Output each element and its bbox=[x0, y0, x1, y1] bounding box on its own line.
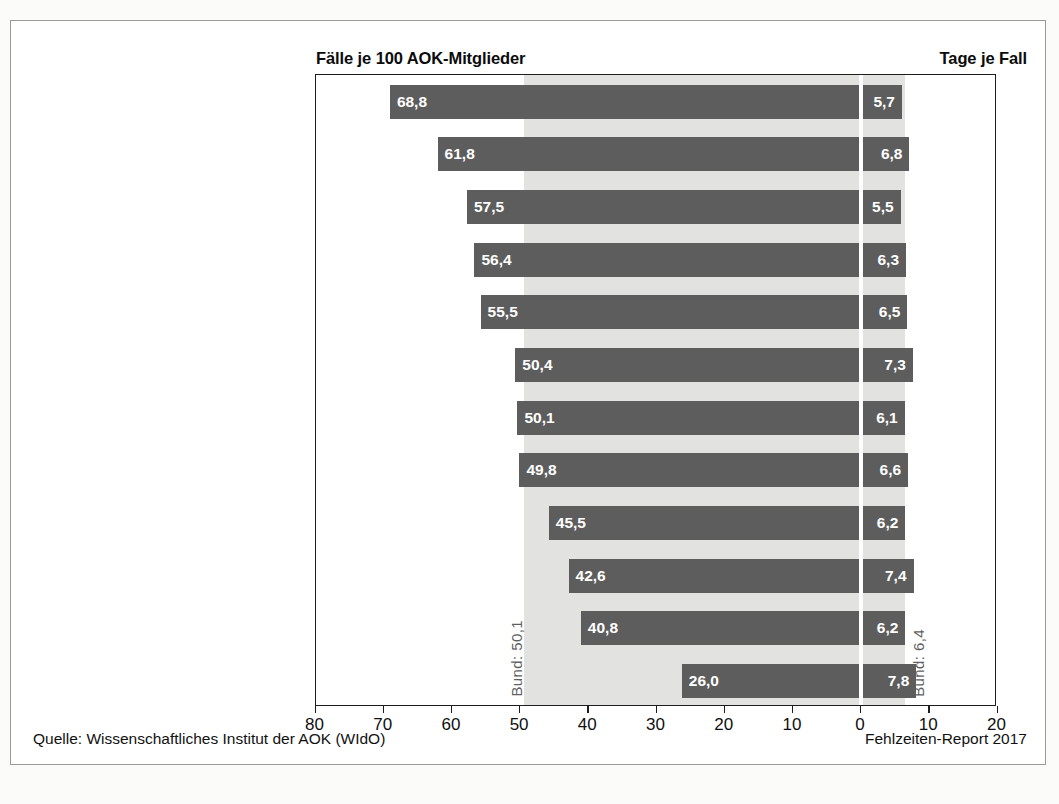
bar-left[interactable]: 50,1 bbox=[517, 401, 859, 435]
bar-value-right: 6,1 bbox=[876, 410, 898, 426]
bar-right[interactable]: 6,3 bbox=[863, 243, 906, 277]
bar-left[interactable]: 68,8 bbox=[390, 85, 859, 119]
axis-tick bbox=[383, 706, 384, 713]
bar-value-right: 6,2 bbox=[877, 515, 899, 531]
reference-label-left: Bund: 50,1 bbox=[508, 620, 525, 697]
bar-value-right: 6,8 bbox=[881, 146, 903, 162]
bar-right[interactable]: 7,8 bbox=[863, 664, 916, 698]
figure-frame: Fälle je 100 AOK-Mitglieder Tage je Fall… bbox=[10, 20, 1046, 765]
bar-left[interactable]: 57,5 bbox=[467, 190, 859, 224]
axis-tick bbox=[792, 706, 793, 713]
bar-value-left: 55,5 bbox=[488, 304, 518, 320]
bar-row: Land- und Forstwirtschaft26,07,8 bbox=[316, 655, 995, 708]
footer: Quelle: Wissenschaftliches Institut der … bbox=[33, 730, 1027, 752]
bar-row: Erziehung und Unterricht68,85,7 bbox=[316, 76, 995, 129]
bar-right[interactable]: 6,8 bbox=[863, 137, 909, 171]
bar-row: Baugewerbe40,86,2 bbox=[316, 602, 995, 655]
bar-row: Verarbeitendes Gewerbe49,86,6 bbox=[316, 444, 995, 497]
bar-value-left: 57,5 bbox=[474, 199, 504, 215]
axis-tick bbox=[928, 706, 929, 713]
bar-value-right: 7,4 bbox=[885, 568, 907, 584]
bar-left[interactable]: 49,8 bbox=[519, 453, 859, 487]
bar-value-left: 50,4 bbox=[522, 357, 552, 373]
bar-value-left: 49,8 bbox=[526, 462, 556, 478]
bar-value-left: 45,5 bbox=[556, 515, 586, 531]
bar-right[interactable]: 6,2 bbox=[863, 611, 905, 645]
bar-left[interactable]: 26,0 bbox=[682, 664, 859, 698]
bar-right[interactable]: 5,7 bbox=[863, 85, 902, 119]
bar-row: Gesundheits- und Sozialwesen55,56,5 bbox=[316, 286, 995, 339]
bar-row: Banken/Versicherungen57,55,5 bbox=[316, 181, 995, 234]
reference-label-right: Bund: 6,4 bbox=[910, 629, 927, 697]
bar-value-left: 40,8 bbox=[588, 620, 618, 636]
bar-value-left: 50,1 bbox=[524, 410, 554, 426]
bar-value-left: 68,8 bbox=[397, 94, 427, 110]
plot-area: Erziehung und Unterricht68,85,7Öffentl. … bbox=[315, 74, 996, 706]
bar-value-right: 6,2 bbox=[877, 620, 899, 636]
axis-tick bbox=[315, 706, 316, 713]
bar-left[interactable]: 61,8 bbox=[438, 137, 859, 171]
bar-left[interactable]: 42,6 bbox=[569, 559, 860, 593]
bar-value-right: 6,6 bbox=[880, 462, 902, 478]
axis-tick bbox=[519, 706, 520, 713]
bar-value-left: 56,4 bbox=[481, 252, 511, 268]
right-axis-title: Tage je Fall bbox=[940, 49, 1027, 68]
bar-left[interactable]: 40,8 bbox=[581, 611, 859, 645]
bar-value-left: 61,8 bbox=[445, 146, 475, 162]
bar-left[interactable]: 45,5 bbox=[549, 506, 859, 540]
bar-left[interactable]: 56,4 bbox=[474, 243, 859, 277]
bar-row: Metallindustrie56,46,3 bbox=[316, 234, 995, 287]
bar-row: Dienstleistungen45,56,2 bbox=[316, 497, 995, 550]
bar-value-right: 5,7 bbox=[873, 94, 895, 110]
left-axis-title: Fälle je 100 AOK-Mitglieder bbox=[316, 49, 525, 68]
axis-tick bbox=[724, 706, 725, 713]
bar-right[interactable]: 6,6 bbox=[863, 453, 908, 487]
bar-left[interactable]: 55,5 bbox=[481, 295, 860, 329]
bar-row: Öffentl. Verwaltung/ Sozialversicherung6… bbox=[316, 128, 995, 181]
axis-tick bbox=[997, 706, 998, 713]
report-note: Fehlzeiten-Report 2017 bbox=[865, 730, 1027, 748]
axis-tick bbox=[587, 706, 588, 713]
bar-value-right: 7,8 bbox=[888, 673, 910, 689]
bar-row: Energie/Wasser/Entsorgung/ Bergbau50,47,… bbox=[316, 339, 995, 392]
bar-row: Handel50,16,1 bbox=[316, 392, 995, 445]
bar-right[interactable]: 5,5 bbox=[863, 190, 901, 224]
bar-value-right: 6,3 bbox=[877, 252, 899, 268]
bar-right[interactable]: 6,1 bbox=[863, 401, 905, 435]
bar-left[interactable]: 50,4 bbox=[515, 348, 859, 382]
source-note: Quelle: Wissenschaftliches Institut der … bbox=[33, 730, 385, 748]
axis-tick bbox=[860, 706, 861, 713]
bar-right[interactable]: 6,2 bbox=[863, 506, 905, 540]
bar-value-left: 42,6 bbox=[576, 568, 606, 584]
axis-tick bbox=[451, 706, 452, 713]
bar-right[interactable]: 6,5 bbox=[863, 295, 907, 329]
bar-value-left: 26,0 bbox=[689, 673, 719, 689]
axis-tick bbox=[656, 706, 657, 713]
bar-value-right: 5,5 bbox=[872, 199, 894, 215]
bar-value-right: 7,3 bbox=[884, 357, 906, 373]
bar-value-right: 6,5 bbox=[879, 304, 901, 320]
bar-right[interactable]: 7,3 bbox=[863, 348, 913, 382]
bar-right[interactable]: 7,4 bbox=[863, 559, 913, 593]
bar-row: Verkehr/Transport42,67,4 bbox=[316, 550, 995, 603]
